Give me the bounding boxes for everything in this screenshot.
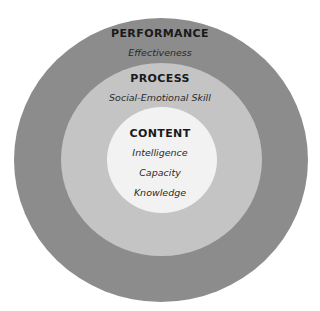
performance-item-effectiveness: Effectiveness [0, 47, 320, 58]
content-item-intelligence: Intelligence [0, 147, 320, 158]
content-item-capacity: Capacity [0, 167, 320, 178]
process-title: PROCESS [0, 72, 320, 85]
performance-title: PERFORMANCE [0, 27, 320, 40]
process-item-social-emotional-skill: Social-Emotional Skill [0, 92, 320, 103]
content-title: CONTENT [0, 127, 320, 140]
content-item-knowledge: Knowledge [0, 187, 320, 198]
